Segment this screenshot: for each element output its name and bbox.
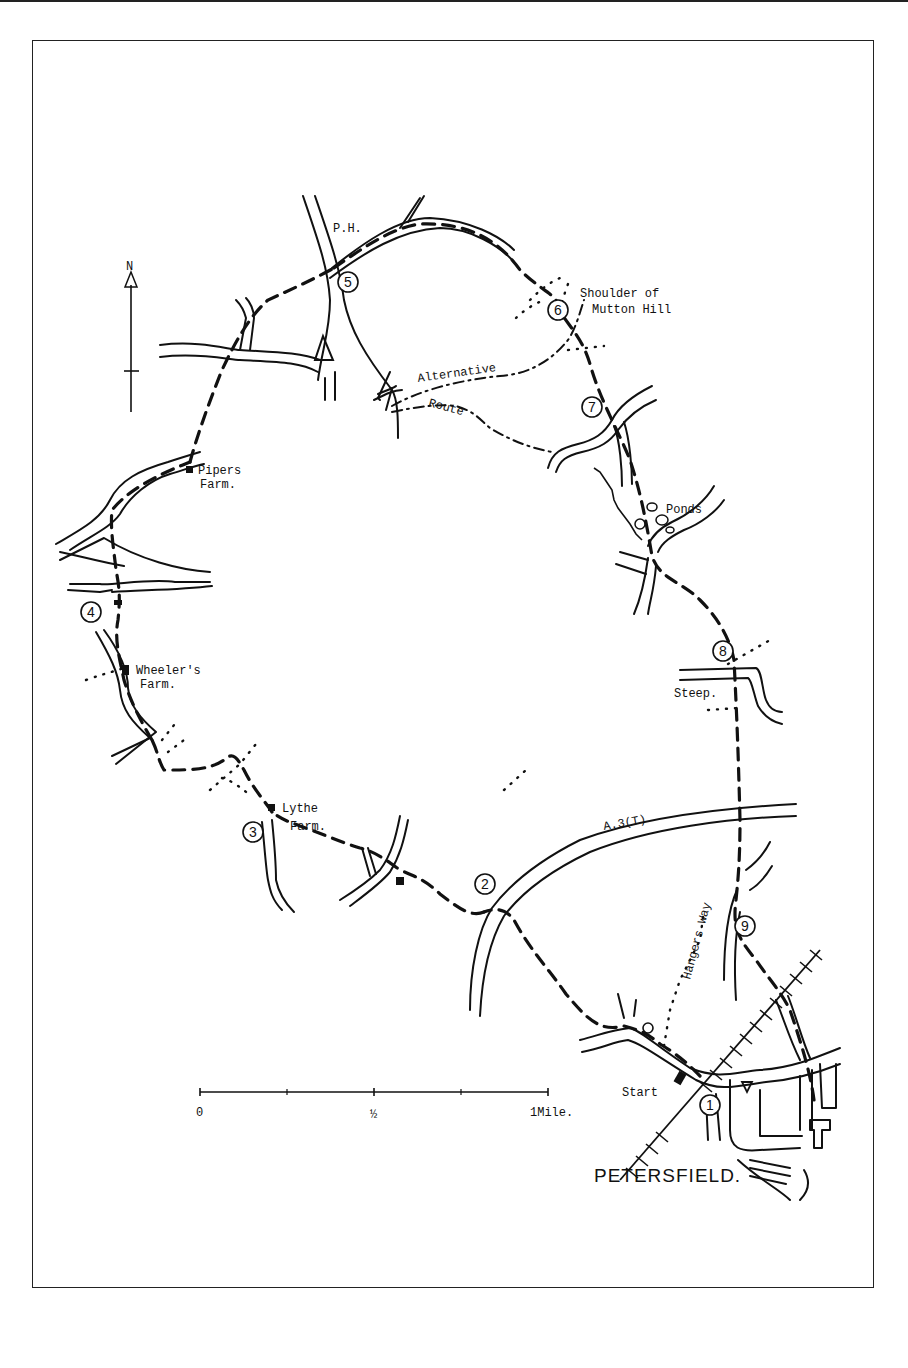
waypoint-9[interactable]: 9: [735, 916, 755, 936]
svg-text:6: 6: [554, 302, 562, 318]
lythe-farm-label-2: Farm.: [290, 820, 326, 834]
scale-tick-1-mile: 1Mile.: [530, 1106, 573, 1120]
lythe-farm-label-1: Lythe: [282, 802, 318, 816]
svg-text:1: 1: [706, 1097, 714, 1113]
wheelers-farm-label-2: Farm.: [140, 678, 176, 692]
waypoint-4[interactable]: 4: [81, 602, 101, 622]
a3-label: A.3(T): [602, 813, 647, 834]
waypoint-2[interactable]: 2: [475, 874, 495, 894]
alternative-route: Alternative Route: [392, 300, 584, 452]
roads-lythe: [262, 816, 408, 912]
north-arrow-icon: N: [124, 260, 139, 412]
wheelers-lane-building: [114, 600, 122, 605]
pipers-farm-label-2: Farm.: [200, 478, 236, 492]
hangers-way-label: Hangers Way: [680, 901, 714, 981]
footpaths: [86, 278, 770, 1046]
start-label: Start: [622, 1086, 658, 1100]
svg-text:8: 8: [719, 643, 727, 659]
shoulder-label-1: Shoulder of: [580, 287, 659, 301]
waypoint-3[interactable]: 3: [243, 822, 263, 842]
lythe-farm-building: [268, 804, 275, 811]
ponds-label: Ponds: [666, 503, 702, 517]
a3-trunk-road: A.3(T): [470, 804, 796, 1016]
waypoint-6[interactable]: 6: [548, 300, 568, 320]
walking-route: [111, 224, 814, 1100]
roads-northeast: [548, 386, 724, 614]
waypoint-7[interactable]: 7: [582, 397, 602, 417]
svg-text:2: 2: [481, 876, 489, 892]
pub-label: P.H.: [333, 222, 362, 236]
farm-buildings: [114, 466, 686, 1085]
town-label: PETERSFIELD.: [594, 1165, 741, 1186]
shoulder-label-2: Mutton Hill: [592, 303, 671, 317]
pipers-farm-building: [186, 466, 193, 473]
roadside-building: [396, 877, 404, 885]
svg-text:9: 9: [741, 918, 749, 934]
waypoint-8[interactable]: 8: [713, 641, 733, 661]
scale-tick-half: ½: [370, 1108, 378, 1122]
roads-west: [56, 452, 212, 764]
scale-bar: 0 ½ 1Mile.: [196, 1088, 573, 1122]
waypoint-5[interactable]: 5: [338, 272, 358, 292]
waypoint-1[interactable]: 1: [700, 1095, 720, 1115]
wheelers-farm-building: [122, 665, 129, 675]
north-label: N: [126, 260, 133, 274]
svg-text:3: 3: [249, 824, 257, 840]
waypoints: 1 2 3 4 5 6 7 8 9: [81, 272, 755, 1115]
walk-map: N: [0, 0, 908, 1368]
svg-text:7: 7: [588, 399, 596, 415]
svg-text:4: 4: [87, 604, 95, 620]
scale-tick-0: 0: [196, 1106, 203, 1120]
wheelers-farm-label-1: Wheeler's: [136, 664, 201, 678]
pipers-farm-label-1: Pipers: [198, 464, 241, 478]
route-label: Route: [427, 396, 465, 419]
steep-label: Steep.: [674, 687, 717, 701]
svg-text:5: 5: [344, 274, 352, 290]
